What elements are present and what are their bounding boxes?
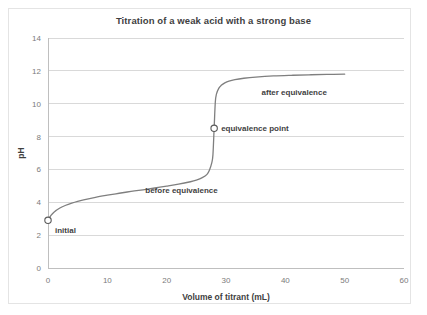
y-tick-label: 4 — [37, 198, 42, 207]
x-tick-label: 10 — [103, 276, 112, 285]
y-tick-label: 0 — [37, 264, 42, 273]
marker-label: initial — [55, 226, 76, 235]
gridlines-group — [48, 38, 404, 268]
region-annotation: before equivalence — [145, 186, 218, 195]
y-tick-label: 2 — [37, 231, 42, 240]
y-axis-title: pH — [16, 147, 26, 158]
data-point-marker — [45, 217, 51, 223]
y-tick-label: 14 — [32, 34, 41, 43]
data-markers-group: initialequivalence point — [45, 124, 289, 235]
axis-titles-group: Volume of titrant (mL)pH — [16, 147, 270, 302]
x-tick-label: 40 — [281, 276, 290, 285]
region-annotation: after equivalence — [262, 88, 328, 97]
titration-chart: Titration of a weak acid with a strong b… — [0, 0, 427, 315]
y-tick-label: 8 — [37, 133, 42, 142]
y-tick-label: 6 — [37, 165, 42, 174]
axes-group — [48, 38, 404, 268]
x-axis-title: Volume of titrant (mL) — [182, 292, 270, 302]
marker-label: equivalence point — [221, 124, 289, 133]
y-tick-labels-group: 02468101214 — [32, 34, 41, 273]
data-point-marker — [211, 125, 217, 131]
x-tick-label: 30 — [222, 276, 231, 285]
y-tick-label: 10 — [32, 100, 41, 109]
plot-area: 0102030405060 02468101214 initialequival… — [0, 0, 427, 315]
y-tick-label: 12 — [32, 67, 41, 76]
x-tick-label: 50 — [340, 276, 349, 285]
x-tick-label: 60 — [400, 276, 409, 285]
x-tick-labels-group: 0102030405060 — [46, 276, 409, 285]
x-tick-label: 20 — [162, 276, 171, 285]
x-tick-label: 0 — [46, 276, 51, 285]
